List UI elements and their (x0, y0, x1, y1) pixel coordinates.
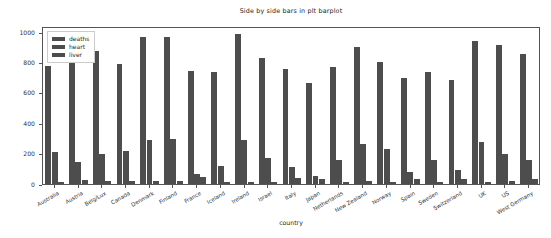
legend-item-label: heart (69, 43, 85, 51)
x-axis-title: country (42, 219, 540, 226)
bar-heart (455, 170, 461, 184)
bar-deaths (425, 72, 431, 184)
bar-group (449, 28, 468, 184)
bar-heart (431, 160, 437, 184)
bar-liver (105, 181, 111, 184)
bar-group (188, 28, 207, 184)
bar-group (211, 28, 230, 184)
bar-liver (532, 179, 538, 184)
bar-heart (384, 149, 390, 184)
legend-item: deaths (52, 35, 89, 43)
x-axis-tick-mark (457, 185, 458, 188)
bar-deaths (283, 69, 289, 184)
bar-deaths (472, 41, 478, 184)
bar-group (235, 28, 254, 184)
bar-heart (502, 154, 508, 184)
bar-deaths (235, 34, 241, 184)
plot-area (42, 27, 540, 185)
bar-liver (437, 182, 443, 184)
bar-group (330, 28, 349, 184)
bar-heart (147, 140, 153, 184)
bar-deaths (496, 45, 502, 184)
x-axis-tick-mark (267, 185, 268, 188)
bar-group (496, 28, 515, 184)
x-axis-tick-mark (410, 185, 411, 188)
bar-group (259, 28, 278, 184)
legend-swatch-icon (52, 37, 65, 42)
bar-deaths (117, 64, 123, 184)
bar-liver (129, 181, 135, 184)
bar-deaths (140, 37, 146, 184)
x-axis-tick-mark (433, 185, 434, 188)
bar-liver (485, 182, 491, 184)
bar-group (306, 28, 325, 184)
bar-group (164, 28, 183, 184)
bar-liver (366, 181, 372, 184)
bar-deaths (306, 83, 312, 184)
bar-deaths (330, 67, 336, 184)
legend-item-label: liver (69, 51, 82, 59)
bar-group (93, 28, 112, 184)
legend-swatch-icon (52, 53, 65, 58)
bar-heart (170, 139, 176, 184)
x-axis-tick-mark (291, 185, 292, 188)
x-axis-tick-mark (172, 185, 173, 188)
bar-group (117, 28, 136, 184)
bar-deaths (259, 58, 265, 184)
legend-item: liver (52, 51, 89, 59)
bar-heart (194, 174, 200, 184)
x-axis-tick-mark (315, 185, 316, 188)
chart-legend: deathsheartliver (47, 31, 95, 63)
bar-deaths (211, 72, 217, 184)
bar-deaths (93, 51, 99, 184)
bar-liver (177, 181, 183, 184)
bar-deaths (69, 53, 75, 184)
bar-group (354, 28, 373, 184)
bar-heart (218, 166, 224, 184)
x-axis-tick-mark (220, 185, 221, 188)
bar-heart (479, 142, 485, 184)
bar-liver (200, 177, 206, 184)
x-axis-tick-mark (149, 185, 150, 188)
bar-group (140, 28, 159, 184)
bar-heart (526, 160, 532, 184)
bar-heart (289, 167, 295, 184)
bar-deaths (377, 62, 383, 184)
chart-title: Side by side bars in plt barplot (42, 7, 540, 15)
x-axis-tick-mark (196, 185, 197, 188)
x-axis-tick-mark (362, 185, 363, 188)
bar-group (401, 28, 420, 184)
x-axis-tick-mark (338, 185, 339, 188)
bar-heart (99, 154, 105, 184)
bars-layer (43, 28, 539, 184)
y-axis-tick-label: 400 (23, 120, 35, 127)
bar-group (283, 28, 302, 184)
matplotlib-figure: Side by side bars in plt barplot 0200400… (0, 0, 551, 238)
bar-liver (248, 182, 254, 184)
x-axis-tick-mark (481, 185, 482, 188)
bar-deaths (188, 71, 194, 184)
bar-liver (153, 181, 159, 184)
bar-liver (461, 179, 467, 184)
y-axis-tick-label: 600 (23, 89, 35, 96)
bar-heart (313, 176, 319, 184)
x-axis-tick-mark (125, 185, 126, 188)
bar-heart (241, 140, 247, 184)
legend-item-label: deaths (69, 35, 89, 43)
bar-heart (75, 162, 81, 184)
bar-heart (265, 158, 271, 184)
bar-deaths (449, 80, 455, 184)
legend-swatch-icon (52, 45, 65, 50)
bar-liver (414, 179, 420, 184)
y-axis-tick-label: 200 (23, 150, 35, 157)
x-axis-tick-mark (244, 185, 245, 188)
bar-deaths (401, 78, 407, 184)
bar-liver (509, 181, 515, 184)
x-axis-tick-mark (504, 185, 505, 188)
x-axis-tick-mark (528, 185, 529, 188)
x-axis-tick-mark (101, 185, 102, 188)
bar-liver (390, 182, 396, 184)
bar-heart (123, 151, 129, 184)
bar-liver (224, 182, 230, 184)
bar-group (377, 28, 396, 184)
